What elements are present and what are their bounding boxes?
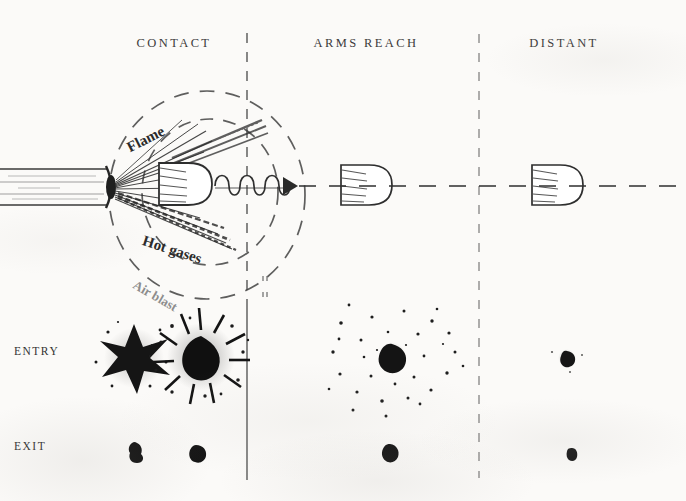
muzzle-bore: [106, 175, 116, 199]
gunshot-range-figure: CONTACT ARMS REACH DISTANT ENTRY EXIT Fl…: [0, 0, 686, 501]
bullet-distant: [532, 165, 583, 205]
exit-wound-contact-2: [189, 445, 206, 463]
exit-wound-contact-1: [129, 442, 143, 463]
figure-artwork: [0, 0, 686, 501]
gun-barrel: [0, 166, 116, 208]
scan-marks: [262, 276, 268, 297]
trajectory-arrowhead: [283, 177, 298, 195]
entry-wound-contact-stellate: [95, 321, 171, 394]
entry-wound-arms-reach: [328, 304, 465, 418]
entry-wound-distant: [551, 349, 583, 373]
row-label-entry: ENTRY: [14, 345, 59, 357]
exit-wound-arms-reach: [382, 444, 399, 462]
bullet-arms-reach: [341, 165, 392, 205]
flame-streaks: [172, 120, 268, 168]
column-header-contact: CONTACT: [114, 36, 234, 51]
row-label-exit: EXIT: [14, 440, 46, 452]
exit-wound-distant: [567, 448, 578, 461]
bullet-contact: [159, 163, 212, 205]
entry-wound-contact-sooted: [149, 308, 250, 404]
column-header-arms-reach: ARMS REACH: [296, 36, 436, 51]
column-header-distant: DISTANT: [504, 36, 624, 51]
smoke-trail-spiral: [215, 176, 298, 196]
